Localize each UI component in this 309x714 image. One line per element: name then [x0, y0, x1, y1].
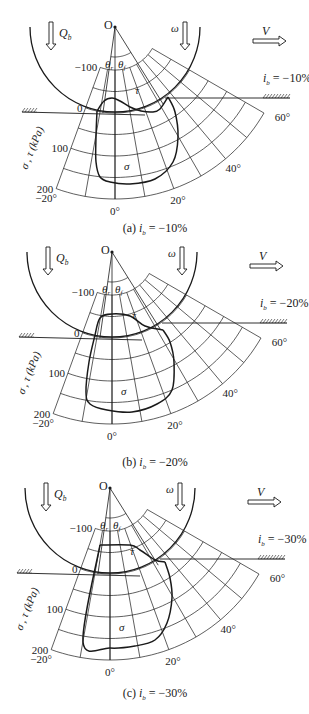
- angle-tick-label: 40°: [226, 162, 241, 174]
- panel-c: Oθrθfτσ−1000100200−20°0°20°40°60°σ , τ (…: [13, 479, 307, 702]
- sigma-label: σ: [119, 621, 125, 633]
- angle-tick-label: 60°: [275, 111, 290, 123]
- grid-ray: [132, 525, 197, 637]
- hatch-stroke: [31, 333, 34, 337]
- hatch-stroke: [260, 319, 263, 323]
- hatch-stroke: [264, 555, 267, 559]
- hatch-stroke: [269, 94, 272, 98]
- hatch-stroke: [269, 319, 272, 323]
- hatch-stroke: [31, 108, 34, 112]
- hatch-stroke: [26, 569, 29, 573]
- angle-tick-label: 40°: [221, 623, 236, 635]
- omega-label: ω: [171, 22, 179, 34]
- stress-axis-label: σ , τ (kPa): [18, 124, 47, 171]
- center-label-O: O: [104, 18, 113, 32]
- angle-tick-label: 20°: [170, 194, 185, 206]
- hatch-stroke: [276, 555, 279, 559]
- hatch-stroke: [272, 94, 275, 98]
- hatch-stroke: [266, 319, 269, 323]
- ground-hatch-rear: [17, 569, 32, 573]
- angle-tick-label: 60°: [272, 336, 287, 348]
- panel-a: Oθrθfτσ−1000100200−20°0°20°40°60°σ , τ (…: [18, 18, 309, 237]
- hatch-stroke: [267, 555, 270, 559]
- grid-ray: [147, 510, 259, 575]
- grid-ray: [134, 289, 199, 401]
- theta-r-label: θr: [102, 283, 110, 296]
- load-arrow-icon: [46, 22, 56, 50]
- grid-ray: [152, 49, 264, 114]
- velocity-arrow-icon: [250, 261, 283, 271]
- angle-tick-label: 0°: [105, 666, 115, 678]
- rotation-arrow-icon: [180, 22, 190, 50]
- angle-tick-label: −20°: [32, 417, 54, 429]
- velocity-label: V: [259, 249, 268, 263]
- sigma-label: σ: [121, 385, 127, 397]
- ground-hatch-front: [263, 94, 290, 98]
- center-label-O: O: [101, 243, 110, 257]
- stress-tick-label: 100: [48, 367, 65, 379]
- hatch-stroke: [258, 555, 261, 559]
- stress-tick-label: 100: [51, 142, 68, 154]
- stress-tick-label: 100: [46, 603, 63, 615]
- load-label: Qb: [56, 251, 69, 267]
- hatch-stroke: [22, 108, 25, 112]
- hatch-stroke: [19, 333, 22, 337]
- hatch-stroke: [278, 319, 281, 323]
- hatch-stroke: [281, 94, 284, 98]
- velocity-label: V: [262, 24, 271, 38]
- load-arrow-icon: [43, 247, 53, 275]
- stress-tick-label: −100: [72, 286, 95, 298]
- ground-hatch-rear: [19, 333, 34, 337]
- angle-tick-label: −20°: [30, 653, 52, 665]
- hatch-stroke: [272, 319, 275, 323]
- hatch-stroke: [34, 108, 37, 112]
- hatch-stroke: [270, 555, 273, 559]
- slip-ratio-label: ib = −20%: [260, 296, 308, 312]
- hatch-stroke: [17, 569, 20, 573]
- hatch-stroke: [284, 94, 287, 98]
- rotation-arrow-icon: [177, 247, 187, 275]
- stress-tick-label: −100: [70, 522, 93, 534]
- hatch-stroke: [263, 319, 266, 323]
- slip-ratio-label: ib = −10%: [263, 71, 309, 87]
- hatch-stroke: [266, 94, 269, 98]
- grid-ray: [149, 274, 261, 339]
- theta-f-label: θf: [115, 283, 123, 296]
- hatch-stroke: [22, 333, 25, 337]
- panel-caption: (b) ib = −20%: [122, 455, 187, 471]
- hatch-stroke: [28, 333, 31, 337]
- hatch-stroke: [278, 94, 281, 98]
- stress-axis-label: σ , τ (kPa): [15, 349, 44, 396]
- hatch-stroke: [279, 555, 282, 559]
- velocity-label: V: [257, 485, 266, 499]
- hatch-stroke: [25, 108, 28, 112]
- stress-tick-label: 0: [74, 327, 80, 339]
- angle-tick-label: 60°: [270, 572, 285, 584]
- theta-f-arc: [115, 52, 131, 57]
- grid-ray: [137, 64, 202, 176]
- hatch-stroke: [25, 333, 28, 337]
- theta-r-label: θr: [100, 519, 108, 532]
- panel-caption: (a) ib = −10%: [123, 221, 188, 237]
- angle-tick-label: 20°: [167, 419, 182, 431]
- load-label: Qb: [59, 26, 72, 42]
- theta-f-label: θf: [113, 519, 121, 532]
- hatch-stroke: [282, 555, 285, 559]
- stress-tick-label: −100: [75, 61, 98, 73]
- stress-tick-label: 0: [72, 563, 78, 575]
- stress-axis-label: σ , τ (kPa): [13, 585, 42, 632]
- angle-tick-label: 0°: [107, 430, 117, 442]
- hatch-stroke: [263, 94, 266, 98]
- theta-f-label: θf: [118, 58, 126, 71]
- slip-ratio-label: ib = −30%: [258, 532, 306, 548]
- wheel-soil-stress-distribution-figure: Oθrθfτσ−1000100200−20°0°20°40°60°σ , τ (…: [0, 0, 309, 714]
- velocity-arrow-icon: [248, 497, 281, 507]
- rotation-arrow-icon: [175, 483, 185, 511]
- ground-hatch-rear: [22, 108, 37, 112]
- hatch-stroke: [275, 94, 278, 98]
- hatch-stroke: [23, 569, 26, 573]
- velocity-arrow-icon: [253, 36, 286, 46]
- panel-caption: (c) ib = −30%: [123, 686, 188, 702]
- load-arrow-icon: [41, 483, 51, 511]
- hatch-stroke: [29, 569, 32, 573]
